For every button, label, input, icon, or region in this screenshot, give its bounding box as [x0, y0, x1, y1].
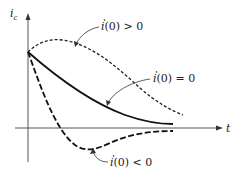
leader-positive-arrow-icon: [74, 41, 79, 47]
label-positive-slope: i(0) > 0: [101, 19, 143, 33]
derivative-dot-icon: [113, 155, 115, 157]
x-axis-arrow-icon: [216, 126, 223, 131]
svg-text:i(0) < 0: i(0) < 0: [110, 156, 152, 169]
label-negative-slope: i(0) < 0: [110, 155, 152, 169]
label-zero-slope: i(0) = 0: [153, 71, 195, 85]
derivative-dot-icon: [156, 71, 158, 73]
y-axis-arrow-icon: [26, 13, 31, 20]
capacitor-current-response-diagram: ic t i(0) > 0 i(0) = 0 i(0) < 0: [0, 0, 236, 175]
leader-zero-arrow-icon: [106, 100, 111, 106]
derivative-dot-icon: [104, 19, 106, 21]
y-axis: [26, 13, 31, 162]
leader-positive-slope: [76, 27, 99, 44]
svg-text:i(0) = 0: i(0) = 0: [153, 72, 195, 85]
curve-zero-slope: [28, 52, 173, 124]
x-axis-label: t: [226, 122, 231, 135]
x-axis: [15, 126, 223, 131]
leader-zero-slope: [108, 79, 150, 103]
y-axis-label: ic: [10, 7, 18, 22]
curve-negative-slope: [28, 52, 173, 149]
svg-text:i(0) > 0: i(0) > 0: [101, 20, 143, 33]
